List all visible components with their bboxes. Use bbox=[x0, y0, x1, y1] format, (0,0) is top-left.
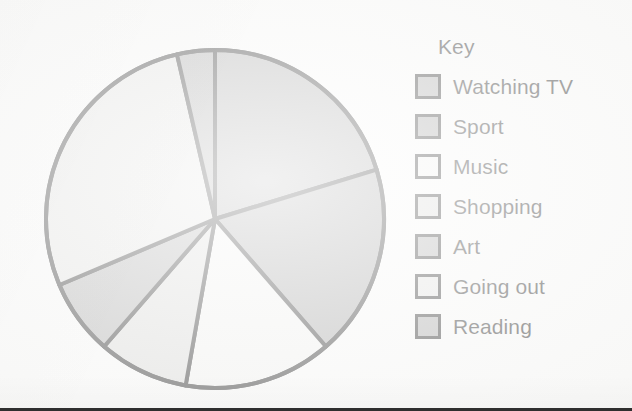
pie-chart-area bbox=[0, 0, 420, 411]
legend-item-label: Watching TV bbox=[453, 76, 573, 97]
legend-item-label: Sport bbox=[453, 116, 504, 137]
legend-item: Music bbox=[414, 146, 628, 186]
legend-item-label: Music bbox=[453, 156, 508, 177]
legend-swatch-icon bbox=[415, 114, 441, 139]
legend-item: Shopping bbox=[414, 186, 628, 226]
legend-item: Art bbox=[414, 226, 628, 266]
legend-item-label: Art bbox=[453, 236, 480, 257]
chart-legend: Key Watching TVSportMusicShoppingArtGoin… bbox=[414, 36, 628, 346]
pie-chart bbox=[36, 40, 394, 398]
legend-item-label: Reading bbox=[453, 316, 532, 337]
legend-item: Watching TV bbox=[414, 66, 628, 106]
legend-swatch-icon bbox=[415, 234, 441, 259]
legend-swatch-icon bbox=[415, 154, 441, 179]
legend-item-label: Shopping bbox=[453, 196, 543, 217]
legend-swatch-icon bbox=[415, 314, 441, 339]
screenshot-page: Key Watching TVSportMusicShoppingArtGoin… bbox=[0, 0, 632, 411]
legend-swatch-icon bbox=[415, 274, 441, 299]
legend-item-label: Going out bbox=[453, 276, 545, 297]
legend-items: Watching TVSportMusicShoppingArtGoing ou… bbox=[414, 66, 628, 346]
legend-swatch-icon bbox=[415, 74, 441, 99]
legend-swatch-icon bbox=[415, 194, 441, 219]
legend-item: Going out bbox=[414, 266, 628, 306]
legend-item: Reading bbox=[414, 306, 628, 346]
legend-title: Key bbox=[438, 36, 628, 57]
legend-item: Sport bbox=[414, 106, 628, 146]
